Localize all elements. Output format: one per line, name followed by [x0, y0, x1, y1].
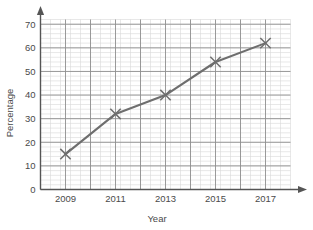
chart-canvas: 20092011201320152017 010203040506070 Yea… [0, 0, 313, 230]
y-tick-label: 60 [25, 42, 36, 53]
x-axis-title: Year [147, 213, 166, 224]
x-axis-tick-labels: 20092011201320152017 [55, 193, 276, 204]
y-tick-label: 70 [25, 19, 36, 30]
y-axis-title: Percentage [4, 89, 15, 138]
y-tick-label: 20 [25, 137, 36, 148]
y-tick-label: 0 [30, 184, 35, 195]
y-tick-label: 10 [25, 160, 36, 171]
x-tick-label: 2009 [55, 193, 76, 204]
x-tick-label: 2017 [255, 193, 276, 204]
y-axis-tick-labels: 010203040506070 [25, 19, 36, 195]
x-tick-label: 2013 [155, 193, 176, 204]
x-tick-label: 2015 [205, 193, 226, 204]
y-tick-label: 50 [25, 66, 36, 77]
x-tick-label: 2011 [105, 193, 125, 204]
y-tick-label: 30 [25, 113, 36, 124]
y-tick-label: 40 [25, 89, 36, 100]
line-chart: 20092011201320152017 010203040506070 Yea… [0, 0, 313, 230]
